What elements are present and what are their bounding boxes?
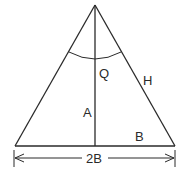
label-angle-q: Q bbox=[99, 66, 109, 81]
label-height-a: A bbox=[83, 105, 92, 120]
triangle-diagram: Q H A B 2B bbox=[0, 0, 186, 175]
label-base-2b: 2B bbox=[86, 151, 102, 166]
left-side bbox=[15, 5, 95, 146]
label-half-base-b: B bbox=[135, 129, 144, 144]
label-hypotenuse-h: H bbox=[143, 73, 152, 88]
